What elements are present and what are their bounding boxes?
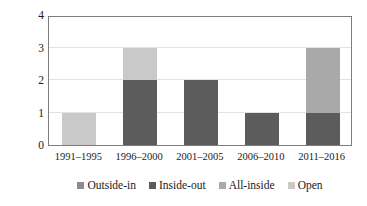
plot-area bbox=[48, 16, 352, 146]
x-tick-label: 2011–2016 bbox=[291, 150, 352, 164]
legend-swatch-icon bbox=[288, 182, 295, 189]
legend-swatch-icon bbox=[219, 182, 226, 189]
x-tick-label: 2006–2010 bbox=[230, 150, 291, 164]
legend-label: Outside-in bbox=[87, 179, 136, 192]
legend-item[interactable]: Open bbox=[288, 179, 323, 192]
y-tick-label: 2 bbox=[4, 75, 44, 86]
y-tick-label: 1 bbox=[4, 108, 44, 119]
x-tick-label: 1996–2000 bbox=[109, 150, 170, 164]
y-tick-label: 4 bbox=[4, 10, 44, 21]
bar-segment[interactable] bbox=[306, 48, 340, 113]
legend-item[interactable]: All-inside bbox=[219, 179, 275, 192]
legend-label: Open bbox=[298, 179, 323, 192]
legend-swatch-icon bbox=[149, 182, 156, 189]
bar-group[interactable] bbox=[245, 113, 279, 146]
x-tick-label: 2001–2005 bbox=[170, 150, 231, 164]
legend-label: Inside-out bbox=[159, 179, 206, 192]
y-tick-label: 0 bbox=[4, 140, 44, 151]
bar-segment[interactable] bbox=[62, 113, 96, 146]
legend-swatch-icon bbox=[77, 182, 84, 189]
bar-group[interactable] bbox=[306, 48, 340, 146]
x-tick-label: 1991–1995 bbox=[48, 150, 109, 164]
y-tick-label: 3 bbox=[4, 43, 44, 54]
legend-item[interactable]: Inside-out bbox=[149, 179, 206, 192]
legend-item[interactable]: Outside-in bbox=[77, 179, 136, 192]
bar-segment[interactable] bbox=[245, 113, 279, 146]
bar-segment[interactable] bbox=[123, 48, 157, 81]
y-axis-tick-labels: 01234 bbox=[0, 16, 44, 146]
bar-segment[interactable] bbox=[123, 80, 157, 145]
legend-label: All-inside bbox=[229, 179, 275, 192]
chart-legend: Outside-inInside-outAll-insideOpen bbox=[48, 176, 352, 194]
bar-group[interactable] bbox=[123, 48, 157, 146]
bar-segment[interactable] bbox=[306, 113, 340, 146]
bar-segment[interactable] bbox=[184, 80, 218, 145]
chart-figure: Number of papers 01234 1991–19951996–200… bbox=[0, 0, 367, 206]
bar-group[interactable] bbox=[62, 113, 96, 146]
bar-group[interactable] bbox=[184, 80, 218, 145]
x-axis-tick-labels: 1991–19951996–20002001–20052006–20102011… bbox=[48, 150, 352, 166]
